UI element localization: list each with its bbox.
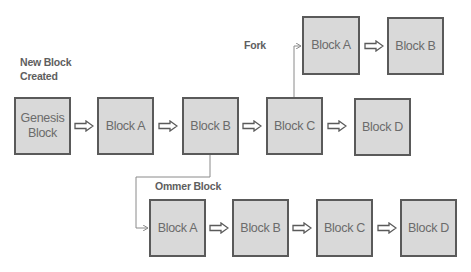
- ommer-block-c: Block C: [316, 199, 373, 257]
- ommer-block-a-label: Block A: [158, 221, 198, 236]
- genesis-line2: Block: [21, 126, 65, 141]
- fork-connector: [294, 46, 301, 97]
- new-block-label-line2: Created: [20, 69, 71, 83]
- block-arrow-icon: [364, 40, 384, 52]
- block-arrow-icon: [327, 120, 347, 132]
- fork-label: Fork: [244, 38, 266, 52]
- block-arrow-icon: [377, 222, 397, 234]
- ommer-block-label: Ommer Block: [155, 179, 221, 193]
- main-block-a: Block A: [97, 97, 154, 155]
- ommer-block-d-label: Block D: [408, 221, 449, 236]
- main-block-d: Block D: [354, 98, 411, 156]
- block-arrow-icon: [74, 120, 94, 132]
- main-genesis-block: Genesis Block: [14, 97, 71, 155]
- ommer-block-b-label: Block B: [240, 221, 280, 236]
- fork-block-b: Block B: [387, 17, 444, 75]
- fork-block-a-label: Block A: [311, 38, 351, 53]
- genesis-line1: Genesis: [21, 111, 65, 126]
- block-arrow-icon: [158, 120, 178, 132]
- new-block-label-line1: New Block: [20, 55, 71, 69]
- ommer-block-d: Block D: [400, 199, 457, 257]
- main-block-a-label: Block A: [106, 119, 146, 134]
- ommer-block-c-label: Block C: [324, 221, 365, 236]
- main-block-c: Block C: [266, 97, 323, 155]
- ommer-block-a: Block A: [149, 199, 206, 257]
- block-arrow-icon: [242, 120, 262, 132]
- blockchain-fork-diagram: New Block Created Fork Ommer Block Genes…: [0, 0, 471, 272]
- new-block-created-label: New Block Created: [20, 55, 71, 83]
- block-arrow-icon: [292, 222, 312, 234]
- main-block-c-label: Block C: [274, 119, 315, 134]
- main-block-b: Block B: [182, 97, 239, 155]
- ommer-block-b: Block B: [232, 199, 289, 257]
- main-block-b-label: Block B: [190, 119, 230, 134]
- block-arrow-icon: [209, 222, 229, 234]
- fork-block-a: Block A: [302, 16, 360, 75]
- fork-block-b-label: Block B: [395, 39, 435, 54]
- main-block-d-label: Block D: [362, 120, 403, 135]
